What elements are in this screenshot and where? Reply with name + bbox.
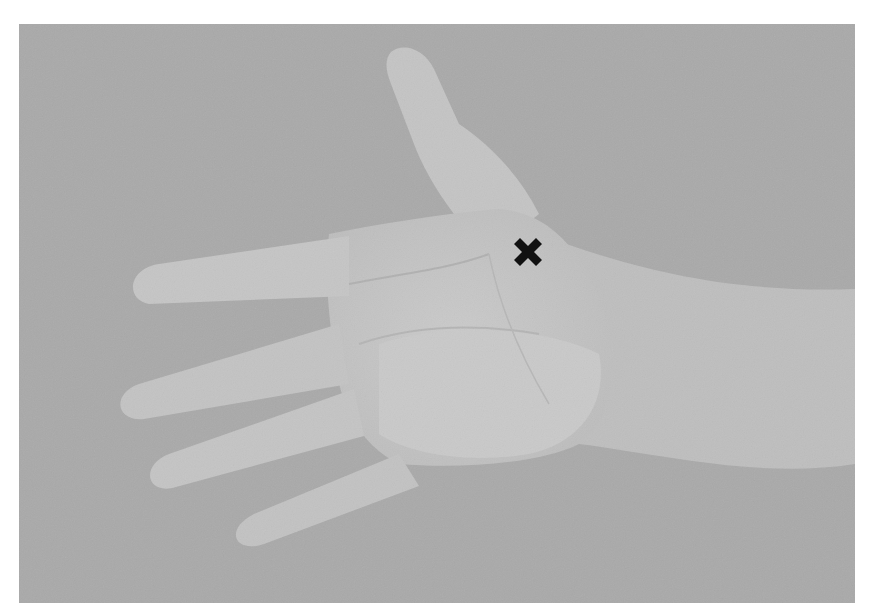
grain-overlay [19,24,855,603]
marker-label: marked point on palm below index finger … [0,0,1,1]
x-mark-icon [508,232,548,272]
hand-illustration [19,24,855,603]
hand-photo [19,24,855,603]
image-description: Grayscale photo of an open left hand, pa… [0,0,1,1]
